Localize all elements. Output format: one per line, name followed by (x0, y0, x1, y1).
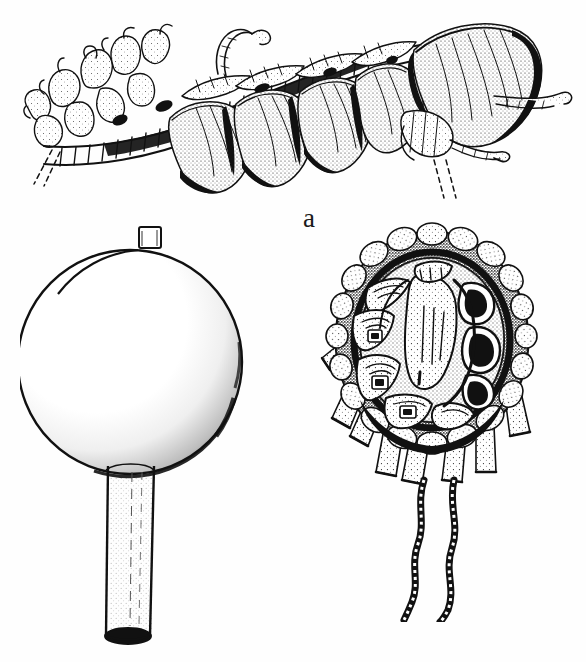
trailing-tentacles (404, 480, 455, 622)
dashed-guide-lines-left (34, 150, 60, 186)
float-and-stalk (20, 227, 242, 644)
panel-b: b (20, 222, 310, 662)
dorsal-tendril (216, 30, 270, 77)
panel-a-drawing (0, 0, 586, 215)
pneumatophore-sphere (20, 250, 242, 477)
dashed-guide-lines (434, 160, 456, 198)
branching-appendages-left (24, 24, 172, 147)
panel-c-drawing (320, 222, 586, 622)
stalk (105, 464, 154, 644)
figure-root: a (0, 0, 586, 662)
panel-c: c (320, 222, 586, 622)
apical-pore-nub (139, 227, 161, 248)
panel-a: a (0, 0, 586, 215)
panel-b-drawing (20, 222, 310, 662)
